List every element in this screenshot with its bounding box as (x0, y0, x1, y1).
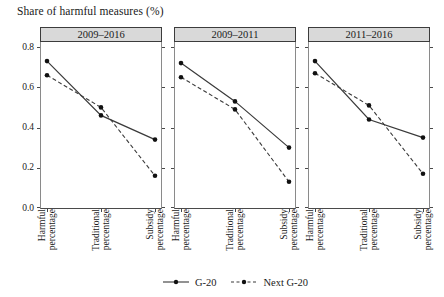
category-label: Subsidypercentage (279, 209, 299, 267)
data-point-marker (45, 59, 50, 64)
data-point-marker (99, 105, 104, 110)
chart-svg (175, 42, 295, 208)
y-tick-mark (296, 47, 299, 48)
y-tick-mark (430, 47, 433, 48)
legend-item-label: Next G-20 (263, 277, 308, 288)
y-tick-mark (296, 128, 299, 129)
x-axis-labels: HarmfulpercentageTraditionalpercentageSu… (40, 209, 162, 271)
category-label: Harmfulpercentage (37, 209, 57, 267)
y-tick-mark (305, 207, 308, 208)
legend-item-label: G-20 (195, 277, 217, 288)
y-tick-label: 0.2 (0, 162, 34, 173)
dashed-line-dot-icon (230, 277, 258, 287)
data-point-marker (153, 137, 158, 142)
y-axis-gutter: 0.80.60.40.20.0 (0, 42, 40, 208)
y-tick-mark (296, 207, 299, 208)
panel-header: 2011–2016 (308, 27, 430, 42)
legend-item-next-g20: Next G-20 (230, 277, 308, 288)
data-point-marker (233, 99, 238, 104)
series-line-solid (47, 61, 155, 140)
data-point-marker (179, 61, 184, 66)
data-point-marker (367, 117, 372, 122)
series-line-dashed (47, 75, 155, 176)
category-label: Subsidypercentage (145, 209, 165, 267)
panel-header: 2009–2011 (174, 27, 296, 42)
y-tick-mark (37, 87, 40, 88)
legend: G-20 Next G-20 (40, 273, 430, 291)
data-point-marker (313, 71, 318, 76)
data-point-marker (179, 75, 184, 80)
plot-area (174, 42, 296, 209)
y-tick-label: 0.8 (0, 42, 34, 53)
panel-header: 2009–2016 (40, 27, 162, 42)
y-tick-mark (171, 168, 174, 169)
legend-item-g20: G-20 (162, 277, 217, 288)
chart-figure: Share of harmful measures (%) 0.80.60.40… (0, 0, 444, 297)
data-point-marker (287, 180, 292, 185)
solid-line-dot-icon (162, 277, 190, 287)
category-label: Traditionalpercentage (225, 209, 245, 267)
x-axis-labels: HarmfulpercentageTraditionalpercentageSu… (174, 209, 296, 271)
data-point-marker (287, 145, 292, 150)
y-tick-label: 0.0 (0, 203, 34, 214)
series-line-solid (315, 61, 423, 138)
data-point-marker (153, 174, 158, 179)
category-label: Harmfulpercentage (171, 209, 191, 267)
y-tick-mark (162, 47, 165, 48)
y-tick-mark (305, 87, 308, 88)
series-line-solid (181, 63, 289, 148)
y-tick-mark (162, 87, 165, 88)
y-tick-label: 0.4 (0, 122, 34, 133)
data-point-marker (421, 135, 426, 140)
panel-2009-2011: 2009–2011 HarmfulpercentageTraditionalpe… (174, 27, 296, 271)
data-point-marker (99, 113, 104, 118)
y-tick-mark (171, 128, 174, 129)
category-label: Traditionalpercentage (91, 209, 111, 267)
y-tick-mark (296, 168, 299, 169)
chart-svg (309, 42, 429, 208)
plot-area (40, 42, 162, 209)
y-tick-mark (305, 128, 308, 129)
y-tick-mark (305, 47, 308, 48)
y-tick-mark (171, 87, 174, 88)
x-axis-labels: HarmfulpercentageTraditionalpercentageSu… (308, 209, 430, 271)
series-line-dashed (181, 77, 289, 182)
data-point-marker (421, 172, 426, 177)
y-tick-mark (37, 47, 40, 48)
y-tick-mark (430, 168, 433, 169)
y-tick-mark (296, 87, 299, 88)
category-label: Traditionalpercentage (359, 209, 379, 267)
y-tick-mark (37, 168, 40, 169)
series-line-dashed (315, 73, 423, 174)
y-tick-mark (430, 128, 433, 129)
category-label: Subsidypercentage (413, 209, 433, 267)
y-tick-mark (37, 207, 40, 208)
y-tick-mark (37, 128, 40, 129)
y-tick-mark (305, 168, 308, 169)
y-tick-mark (162, 168, 165, 169)
y-tick-label: 0.6 (0, 82, 34, 93)
y-tick-mark (171, 207, 174, 208)
y-tick-mark (162, 207, 165, 208)
panel-2009-2016: 2009–2016 HarmfulpercentageTraditionalpe… (40, 27, 162, 271)
y-tick-mark (162, 128, 165, 129)
data-point-marker (367, 103, 372, 108)
category-label: Harmfulpercentage (305, 209, 325, 267)
figure-title: Share of harmful measures (%) (17, 5, 164, 17)
plot-area (308, 42, 430, 209)
data-point-marker (45, 73, 50, 78)
data-point-marker (313, 59, 318, 64)
data-point-marker (233, 107, 238, 112)
y-tick-mark (430, 207, 433, 208)
y-tick-mark (171, 47, 174, 48)
panel-2011-2016: 2011–2016 HarmfulpercentageTraditionalpe… (308, 27, 430, 271)
y-tick-mark (430, 87, 433, 88)
chart-svg (41, 42, 161, 208)
